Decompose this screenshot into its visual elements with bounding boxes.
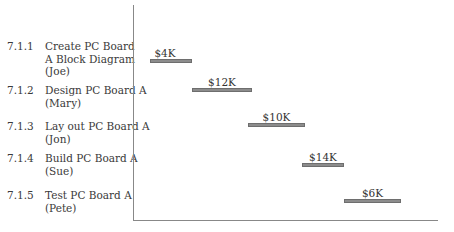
cost-label: $4K: [150, 47, 180, 59]
task-code: 7.1.5: [7, 189, 45, 202]
task-code: 7.1.3: [7, 120, 45, 133]
task-name-cont: A Block Diagram: [7, 53, 135, 66]
task-owner: (Joe): [7, 65, 135, 78]
cost-label: $10K: [248, 111, 305, 123]
task-owner: (Mary): [7, 97, 147, 110]
task-bar-7-1-4: [302, 163, 344, 167]
cost-label: $12K: [192, 76, 252, 88]
task-bar-7-1-3: [248, 123, 305, 127]
cost-label: $6K: [344, 187, 401, 199]
task-owner: (Sue): [7, 165, 138, 178]
task-code: 7.1.1: [7, 40, 45, 53]
task-label-7-1-5: 7.1.5Test PC Board A (Pete): [7, 189, 132, 214]
task-name: Build PC Board A: [45, 152, 138, 164]
task-name: Test PC Board A: [45, 189, 132, 201]
task-label-7-1-4: 7.1.4Build PC Board A (Sue): [7, 152, 138, 177]
task-owner: (Pete): [7, 202, 132, 215]
task-bar-7-1-1: [150, 59, 192, 63]
task-name: Create PC Board: [45, 40, 135, 52]
task-name: Design PC Board A: [45, 84, 147, 96]
task-owner: (Jon): [7, 133, 150, 146]
task-label-7-1-2: 7.1.2Design PC Board A (Mary): [7, 84, 147, 109]
cost-label: $14K: [302, 151, 344, 163]
task-code: 7.1.2: [7, 84, 45, 97]
task-code: 7.1.4: [7, 152, 45, 165]
task-bar-7-1-5: [344, 199, 401, 203]
y-axis: [133, 5, 134, 220]
x-axis: [133, 220, 438, 221]
task-label-7-1-3: 7.1.3Lay out PC Board A (Jon): [7, 120, 150, 145]
task-bar-7-1-2: [192, 88, 252, 92]
task-label-7-1-1: 7.1.1Create PC Board A Block Diagram (Jo…: [7, 40, 135, 78]
